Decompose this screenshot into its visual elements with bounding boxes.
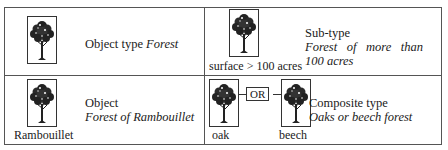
tree-icon-oak — [209, 79, 239, 127]
tree-icon — [27, 16, 57, 64]
sub-type-caption: surface > 100 acres — [209, 60, 302, 73]
object-type-name: Forest — [146, 37, 178, 51]
or-connector-right — [273, 94, 281, 95]
tree-icon — [27, 79, 57, 127]
tree-icon — [229, 9, 259, 57]
cell-sub-type: surface > 100 acres Sub-type Forest of m… — [205, 8, 441, 75]
sub-type-subtitle-1: Forest of more than — [305, 40, 423, 54]
object-type-label: Object type Forest — [85, 37, 178, 51]
object-subtitle: Forest of Rambouillet — [85, 110, 194, 124]
tree-icon-beech — [281, 79, 311, 127]
beech-caption: beech — [279, 129, 307, 142]
cell-object: Rambouillet Object Forest of Rambouillet — [5, 76, 204, 145]
or-operator: OR — [246, 87, 269, 101]
or-connector-left — [239, 94, 246, 95]
object-caption: Rambouillet — [14, 129, 73, 142]
object-title: Object — [85, 96, 118, 110]
oak-caption: oak — [212, 129, 229, 142]
sub-type-subtitle-2: 100 acres — [305, 54, 354, 68]
cell-object-type: Object type Forest — [5, 8, 204, 75]
cell-composite-type: OR oak beech Composite type Oaks or beec… — [205, 76, 441, 145]
composite-type-title: Composite type — [309, 96, 388, 110]
concept-table: Object type Forest surface > 100 acres S… — [4, 7, 442, 145]
composite-type-subtitle: Oaks or beech forest — [309, 110, 412, 124]
sub-type-title: Sub-type — [305, 26, 350, 40]
